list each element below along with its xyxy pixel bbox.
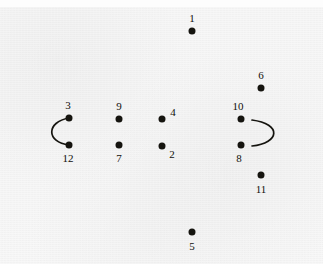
dot-arc-figure: 163941012728115 — [0, 0, 323, 264]
dot-label-4: 4 — [170, 107, 176, 118]
dot-label-12: 12 — [63, 153, 74, 164]
dot-label-8: 8 — [236, 153, 242, 164]
dot-10 — [238, 116, 245, 123]
dot-label-9: 9 — [116, 101, 122, 112]
dot-label-5: 5 — [189, 241, 195, 252]
dot-label-11: 11 — [256, 184, 267, 195]
top-margin-strip — [0, 0, 323, 7]
dot-9 — [116, 116, 123, 123]
dot-6 — [258, 85, 265, 92]
dot-2 — [159, 143, 166, 150]
dot-label-3: 3 — [65, 100, 71, 111]
dot-label-10: 10 — [233, 101, 244, 112]
dot-5 — [189, 229, 196, 236]
dot-label-2: 2 — [169, 149, 175, 160]
dot-3 — [66, 115, 73, 122]
dot-12 — [66, 142, 73, 149]
dot-4 — [159, 116, 166, 123]
dot-label-6: 6 — [258, 70, 264, 81]
dot-11 — [258, 172, 265, 179]
dot-label-7: 7 — [116, 153, 122, 164]
dot-8 — [238, 142, 245, 149]
dot-label-1: 1 — [189, 13, 195, 24]
dot-1 — [189, 28, 196, 35]
paper-texture-overlay — [0, 0, 323, 264]
dot-7 — [116, 142, 123, 149]
